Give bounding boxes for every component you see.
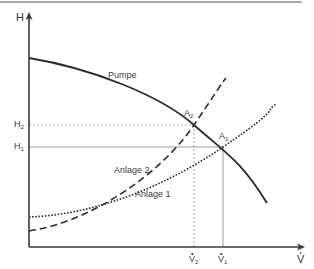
h1-subscript: 1 [21,146,24,152]
a2-subscript: 2 [190,113,193,119]
h2-subscript: 2 [21,124,24,130]
pump-curve [29,58,267,203]
operating-point-a2-label: A2 [184,109,193,119]
v2-subscript: 2 [195,259,198,265]
x-axis-label-text: V [297,254,304,265]
system-curve-2-label: Anlage 2 [114,166,150,175]
v2-tick-label: V2 [189,255,198,265]
v1-letter: V [218,255,224,264]
system-curve-1 [29,104,276,217]
y-axis-label: H [16,12,24,23]
v1-tick-label: V1 [218,255,227,265]
x-axis-label: V [297,254,304,265]
v1-subscript: 1 [224,259,227,265]
a1-subscript: 1 [225,136,228,142]
operating-point-a1-label: A1 [219,132,228,142]
system-curve-2 [29,78,226,231]
y-axis-label-text: H [16,11,24,23]
pump-system-diagram [0,0,314,269]
h2-tick-label: H2 [14,120,24,130]
v2-letter: V [189,255,195,264]
h1-tick-label: H1 [14,142,24,152]
pump-curve-label: Pumpe [108,71,137,80]
system-curve-1-label: Anlage 1 [135,190,171,199]
